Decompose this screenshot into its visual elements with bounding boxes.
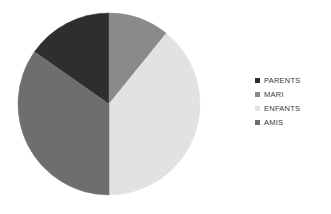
legend-label-mari: MARI bbox=[264, 90, 284, 99]
pie-slice-group bbox=[18, 13, 200, 195]
legend-item-enfants[interactable]: ENFANTS bbox=[255, 101, 331, 115]
legend-swatch-icon-amis bbox=[255, 120, 260, 125]
legend-swatch-icon-enfants bbox=[255, 106, 260, 111]
pie-chart-figure: PARENTS MARI ENFANTS AMIS bbox=[0, 0, 331, 214]
legend-item-amis[interactable]: AMIS bbox=[255, 115, 331, 129]
pie-svg bbox=[14, 8, 206, 204]
legend-label-enfants: ENFANTS bbox=[264, 104, 300, 113]
legend-label-parents: PARENTS bbox=[264, 76, 301, 85]
legend-swatch-icon-mari bbox=[255, 92, 260, 97]
legend-label-amis: AMIS bbox=[264, 118, 283, 127]
pie-plot-area bbox=[14, 8, 206, 204]
legend-item-mari[interactable]: MARI bbox=[255, 87, 331, 101]
legend-item-parents[interactable]: PARENTS bbox=[255, 73, 331, 87]
legend-swatch-icon-parents bbox=[255, 78, 260, 83]
chart-legend: PARENTS MARI ENFANTS AMIS bbox=[255, 73, 331, 129]
